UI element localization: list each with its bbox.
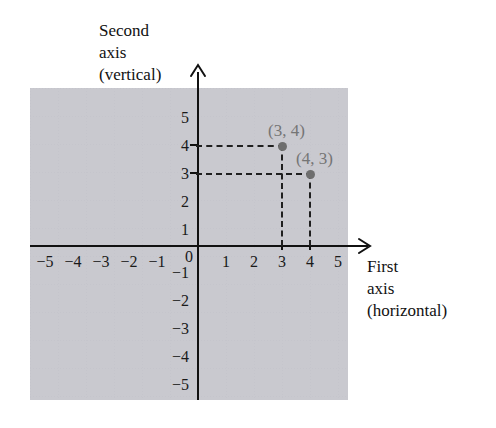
grid-line-horizontal (30, 340, 348, 341)
x-tick-label--4: −4 (60, 254, 86, 270)
y-axis-arrowhead-icon (188, 64, 208, 78)
data-point-label-4-3: (4, 3) (296, 150, 333, 168)
x-tick-label--3: −3 (88, 254, 114, 270)
x-axis-arrowhead-icon (358, 236, 372, 256)
grid-line-vertical (114, 88, 115, 400)
grid-line-vertical (142, 88, 143, 400)
grid-line-horizontal (30, 284, 348, 285)
origin-label: 0 (167, 249, 193, 265)
y-tick-label--2: −2 (163, 293, 189, 309)
grid-line-horizontal (30, 396, 348, 397)
y-axis-title-line-1: Second (99, 20, 161, 42)
x-tick-label-3: 3 (269, 254, 295, 270)
grid-line-horizontal (30, 144, 348, 145)
guide-line-vertical-x3 (281, 145, 283, 246)
y-axis-title: Second axis (vertical) (99, 20, 161, 86)
y-tick-label-4: 4 (163, 138, 189, 154)
x-tick-label-2: 2 (241, 254, 267, 270)
data-point-3-4[interactable] (278, 142, 287, 151)
y-tick-label--1: −1 (163, 265, 189, 281)
grid-line-vertical (58, 88, 59, 400)
guide-line-horizontal-y4 (196, 145, 284, 147)
x-tick-label--5: −5 (32, 254, 58, 270)
y-tick-label-3: 3 (163, 166, 189, 182)
grid-line-horizontal (30, 200, 348, 201)
y-axis-line (197, 72, 199, 400)
grid-line-vertical (86, 88, 87, 400)
x-axis-title-line-3: (horizontal) (367, 300, 447, 322)
grid-line-horizontal (30, 228, 348, 229)
x-tick-label-4: 4 (297, 254, 323, 270)
grid-line-horizontal (30, 368, 348, 369)
coordinate-plane-figure: −5 −4 −3 −2 −1 1 2 3 4 5 0 5 4 3 2 1 −1 … (0, 0, 496, 428)
y-tick-label-1: 1 (163, 222, 189, 238)
y-axis-title-line-3: (vertical) (99, 64, 161, 86)
guide-line-vertical-x4 (309, 173, 311, 246)
x-tick-label-5: 5 (325, 254, 351, 270)
y-tick-label--4: −4 (163, 349, 189, 365)
data-point-label-3-4: (3, 4) (268, 122, 305, 140)
grid-line-vertical (338, 88, 339, 400)
grid-line-vertical (254, 88, 255, 400)
x-axis-title-line-1: First (367, 256, 447, 278)
x-axis-title-line-2: axis (367, 278, 447, 300)
data-point-4-3[interactable] (306, 170, 315, 179)
x-tick-label-1: 1 (213, 254, 239, 270)
grid-line-vertical (30, 88, 31, 400)
x-axis-title: First axis (horizontal) (367, 256, 447, 322)
x-tick-label--2: −2 (116, 254, 142, 270)
grid-line-horizontal (30, 116, 348, 117)
y-axis-title-line-2: axis (99, 42, 161, 64)
grid-line-horizontal (30, 312, 348, 313)
grid-line-vertical (226, 88, 227, 400)
y-tick-label--3: −3 (163, 321, 189, 337)
y-tick-label--5: −5 (163, 377, 189, 393)
grid-line-horizontal (30, 88, 348, 89)
y-tick-label-5: 5 (163, 110, 189, 126)
y-tick-label-2: 2 (163, 194, 189, 210)
guide-line-horizontal-y3 (196, 173, 312, 175)
x-axis-line (30, 245, 368, 247)
